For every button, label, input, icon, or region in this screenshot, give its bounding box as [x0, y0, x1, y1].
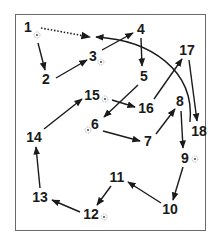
- edge-8-to-9: [181, 111, 183, 148]
- edge-12-to-13: [52, 200, 80, 212]
- node-label-17: 17: [179, 43, 195, 57]
- node-label-10: 10: [162, 202, 178, 216]
- node-label-5: 5: [140, 69, 148, 83]
- edge-1-to-3-4-gap: [41, 28, 90, 37]
- node-label-6: 6: [91, 117, 99, 131]
- edge-7-to-8: [156, 109, 175, 134]
- node-label-14: 14: [26, 130, 42, 144]
- node-label-1: 1: [24, 20, 32, 34]
- edge-13-to-14: [36, 147, 40, 188]
- node-label-16: 16: [138, 101, 154, 115]
- node-label-8: 8: [176, 94, 184, 108]
- edge-1-to-2: [38, 43, 45, 70]
- edge-10-to-11: [128, 182, 161, 203]
- node-label-2: 2: [42, 72, 50, 86]
- node-label-12: 12: [83, 207, 99, 221]
- edge-4-to-5: [141, 38, 142, 66]
- target-marker-icon: [101, 214, 107, 220]
- node-label-9: 9: [181, 151, 189, 165]
- node-markers-layer: [34, 32, 198, 220]
- sequence-diagram: [0, 0, 220, 246]
- node-label-15: 15: [84, 88, 100, 102]
- node-label-11: 11: [110, 170, 125, 184]
- node-label-18: 18: [191, 124, 207, 138]
- edge-14-to-15: [44, 99, 82, 129]
- target-marker-icon: [98, 59, 104, 65]
- edge-9-to-10: [173, 167, 183, 200]
- target-marker-icon: [85, 127, 91, 133]
- edge-5-to-6: [104, 85, 138, 117]
- target-marker-icon: [192, 156, 198, 162]
- node-label-13: 13: [32, 190, 48, 204]
- node-label-3: 3: [89, 49, 97, 63]
- node-label-4: 4: [137, 22, 145, 36]
- edge-6-to-7: [103, 131, 140, 141]
- target-marker-icon: [102, 96, 108, 102]
- target-marker-icon: [34, 32, 40, 38]
- node-label-7: 7: [144, 134, 152, 148]
- edge-11-to-12: [97, 186, 111, 205]
- edge-2-to-3: [56, 60, 87, 78]
